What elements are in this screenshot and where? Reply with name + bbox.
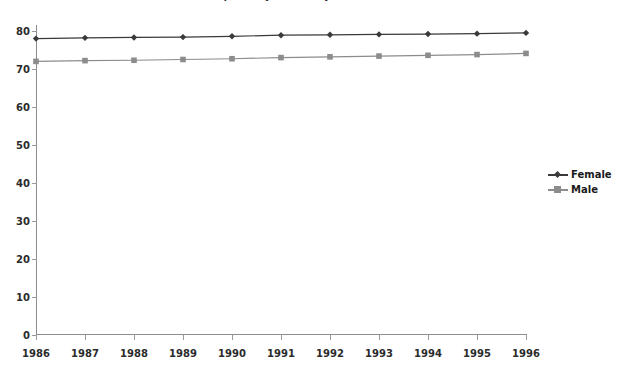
data-point-female bbox=[376, 31, 382, 37]
x-axis-tick bbox=[330, 335, 331, 340]
y-axis-tick-label: 60 bbox=[16, 102, 30, 113]
line-chart: Life expectancy at birth by sex 01020304… bbox=[0, 0, 627, 374]
y-axis-tick-label: 80 bbox=[16, 26, 30, 37]
data-point-female bbox=[82, 35, 88, 41]
data-point-male bbox=[327, 54, 333, 60]
x-axis-tick bbox=[85, 335, 86, 340]
x-axis-tick-label: 1990 bbox=[218, 348, 246, 359]
data-point-female bbox=[131, 34, 137, 40]
x-axis-tick bbox=[428, 335, 429, 340]
x-axis-tick-label: 1986 bbox=[22, 348, 50, 359]
data-point-male bbox=[278, 55, 284, 61]
y-axis-tick-label: 10 bbox=[16, 292, 30, 303]
y-axis-tick-label: 50 bbox=[16, 140, 30, 151]
x-axis-tick bbox=[379, 335, 380, 340]
data-point-female bbox=[425, 31, 431, 37]
y-axis-tick-label: 40 bbox=[16, 178, 30, 189]
data-point-male bbox=[425, 53, 431, 59]
legend-label: Female bbox=[571, 169, 612, 180]
x-axis-tick-label: 1989 bbox=[169, 348, 197, 359]
data-point-female bbox=[523, 30, 529, 36]
y-axis-tick-label: 20 bbox=[16, 254, 30, 265]
series-layer bbox=[36, 31, 527, 335]
data-point-female bbox=[180, 34, 186, 40]
legend-marker-diamond-icon bbox=[548, 169, 568, 180]
x-axis-tick bbox=[36, 335, 37, 340]
legend-label: Male bbox=[571, 184, 598, 195]
data-point-male bbox=[131, 57, 137, 63]
x-axis-tick bbox=[526, 335, 527, 340]
x-axis-tick-label: 1993 bbox=[365, 348, 393, 359]
legend-item-male[interactable]: Male bbox=[548, 182, 624, 197]
x-axis-tick bbox=[134, 335, 135, 340]
data-point-female bbox=[229, 33, 235, 39]
data-point-female bbox=[474, 30, 480, 36]
data-point-female bbox=[327, 32, 333, 38]
x-axis-tick-label: 1991 bbox=[267, 348, 295, 359]
chart-legend: FemaleMale bbox=[548, 167, 624, 197]
y-axis-tick-label: 70 bbox=[16, 64, 30, 75]
data-point-male bbox=[523, 51, 529, 57]
chart-title: Life expectancy at birth by sex bbox=[0, 0, 540, 1]
data-point-male bbox=[376, 53, 382, 59]
legend-item-female[interactable]: Female bbox=[548, 167, 624, 182]
data-point-male bbox=[180, 57, 186, 63]
data-point-male bbox=[474, 52, 480, 58]
y-axis-tick-label: 30 bbox=[16, 216, 30, 227]
x-axis-tick-label: 1988 bbox=[120, 348, 148, 359]
y-axis-tick-label: 0 bbox=[23, 330, 30, 341]
x-axis-tick-label: 1995 bbox=[463, 348, 491, 359]
data-point-female bbox=[278, 32, 284, 38]
data-point-female bbox=[33, 35, 39, 41]
x-axis-tick-label: 1996 bbox=[512, 348, 540, 359]
data-point-male bbox=[33, 59, 39, 65]
x-axis-tick bbox=[232, 335, 233, 340]
x-axis-tick bbox=[281, 335, 282, 340]
x-axis-tick-label: 1994 bbox=[414, 348, 442, 359]
x-axis-tick bbox=[183, 335, 184, 340]
x-axis-tick-label: 1987 bbox=[71, 348, 99, 359]
data-point-male bbox=[229, 56, 235, 62]
plot-area: 01020304050607080 1986198719881989199019… bbox=[36, 31, 527, 335]
data-point-male bbox=[82, 58, 88, 64]
x-axis-tick bbox=[477, 335, 478, 340]
legend-marker-square-icon bbox=[548, 184, 568, 195]
x-axis-tick-label: 1992 bbox=[316, 348, 344, 359]
